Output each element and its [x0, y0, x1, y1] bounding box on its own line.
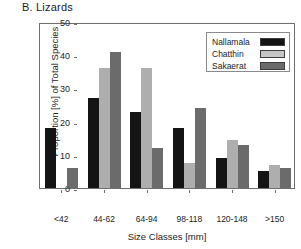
y-tick-mark — [74, 190, 77, 191]
y-tick: 20 — [40, 124, 77, 125]
x-tick-mark — [232, 190, 233, 193]
bar — [99, 68, 110, 188]
legend-label: Nallamala — [212, 37, 250, 47]
y-tick: 30 — [40, 90, 77, 91]
y-tick-label: 40 — [60, 51, 70, 61]
y-tick-mark — [74, 124, 77, 125]
bar — [152, 148, 163, 188]
legend-item: Sakaerat — [212, 60, 285, 71]
x-tick-label: <42 — [54, 214, 68, 224]
y-tick-mark — [74, 57, 77, 58]
x-tick-mark — [189, 190, 190, 193]
y-tick-label: 30 — [60, 84, 70, 94]
legend-label: Sakaerat — [212, 61, 246, 71]
legend-item: Chatthin — [212, 48, 285, 59]
x-tick-mark — [104, 190, 105, 193]
legend-swatch-icon — [260, 50, 285, 58]
x-tick-label: 98-118 — [176, 214, 202, 224]
x-tick-mark — [147, 190, 148, 193]
x-tick-mark — [61, 190, 62, 193]
plot-area: Proportion [%] of Total Species 01020304… — [39, 23, 295, 189]
bar — [130, 112, 141, 188]
y-tick: 0 — [40, 190, 77, 191]
legend-swatch-icon — [260, 38, 285, 46]
y-tick-label: 10 — [60, 151, 70, 161]
bar — [216, 158, 227, 188]
y-tick-mark — [74, 157, 77, 158]
y-tick-label: 20 — [60, 118, 70, 128]
x-tick-mark — [275, 190, 276, 193]
legend: Nallamala Chatthin Sakaerat — [206, 32, 290, 72]
legend-item: Nallamala — [212, 36, 285, 47]
bar — [258, 171, 269, 188]
bar — [195, 108, 206, 188]
bar — [45, 128, 56, 188]
bar — [238, 145, 249, 188]
bar — [67, 168, 78, 188]
bar — [88, 98, 99, 188]
bar — [110, 52, 121, 188]
bar — [227, 140, 238, 188]
bar — [269, 165, 280, 188]
x-tick-label: 64-94 — [136, 214, 158, 224]
y-tick-mark — [74, 24, 77, 25]
bar — [184, 163, 195, 188]
y-tick-mark — [74, 90, 77, 91]
panel-title: B. Lizards — [22, 1, 73, 13]
y-tick-label: 50 — [60, 18, 70, 28]
bar — [141, 68, 152, 188]
y-tick: 40 — [40, 57, 77, 58]
x-axis-title: Size Classes [mm] — [39, 231, 295, 242]
x-tick-label: >150 — [265, 214, 284, 224]
y-tick: 50 — [40, 24, 77, 25]
legend-label: Chatthin — [212, 49, 244, 59]
legend-swatch-icon — [260, 62, 285, 70]
figure-panel-b-lizards: B. Lizards Proportion [%] of Total Speci… — [0, 0, 301, 249]
bar — [280, 168, 291, 188]
bar — [173, 128, 184, 188]
x-tick-label: 120-148 — [216, 214, 247, 224]
x-tick-label: 44-62 — [93, 214, 115, 224]
